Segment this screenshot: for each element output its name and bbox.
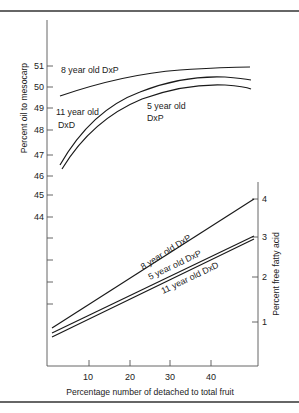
right-tick-labels: 4 3 2 1 xyxy=(262,194,267,327)
left-tick-labels: 51 50 49 48 47 46 45 44 xyxy=(34,61,44,222)
x-tick-40: 40 xyxy=(206,372,216,382)
x-axis-title: Percentage number of detached to total f… xyxy=(66,387,234,397)
right-tick-2: 2 xyxy=(262,272,267,282)
chart-figure: 51 50 49 48 47 46 45 44 4 3 2 1 10 20 30… xyxy=(0,0,299,413)
x-tick-labels: 10 20 30 40 xyxy=(83,372,216,382)
label-8yr-dxp-upper: 8 year old DxP xyxy=(61,65,119,75)
right-tick-1: 1 xyxy=(262,317,267,327)
left-tick-46: 46 xyxy=(34,171,44,181)
left-tick-51: 51 xyxy=(34,61,44,71)
left-tick-49: 49 xyxy=(34,103,44,113)
lower-lines xyxy=(52,199,254,337)
label-5yr-dxp-upper-1: 5 year old xyxy=(147,101,186,111)
left-axis-title: Percent oil to mesocarp xyxy=(19,63,29,153)
x-tick-20: 20 xyxy=(125,372,135,382)
x-tick-30: 30 xyxy=(165,372,175,382)
curve-5yr-dxp-oil xyxy=(62,85,251,169)
left-tick-50: 50 xyxy=(34,82,44,92)
label-11yr-dxd-upper-2: DxD xyxy=(58,120,75,130)
right-tick-4: 4 xyxy=(262,194,267,204)
left-tick-48: 48 xyxy=(34,125,44,135)
right-tick-3: 3 xyxy=(262,232,267,242)
line-5yr-dxp-ffa xyxy=(52,236,254,333)
left-tick-44: 44 xyxy=(34,212,44,222)
label-11yr-dxd-upper-1: 11 year old xyxy=(56,107,99,117)
left-tick-47: 47 xyxy=(34,150,44,160)
left-tick-45: 45 xyxy=(34,190,44,200)
x-tick-10: 10 xyxy=(83,372,93,382)
right-axis-title: Percent free fatty acid xyxy=(271,232,281,316)
label-5yr-dxp-upper-2: DxP xyxy=(147,113,164,123)
